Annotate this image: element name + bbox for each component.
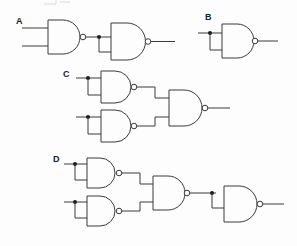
wire-d1-branch-down — [75, 164, 87, 180]
wire-c1-to-c3 — [137, 87, 169, 98]
wire-d1-to-d3 — [122, 173, 153, 184]
circuit-b-label: B — [205, 12, 212, 22]
wire-a-branch-down — [99, 37, 111, 52]
circuit-c: C — [63, 69, 230, 142]
gate-a1-nand — [48, 20, 86, 54]
circuit-a: A — [16, 16, 175, 60]
gate-c2-nand-inverter — [101, 110, 137, 142]
logic-circuit-diagram: A B — [0, 0, 297, 246]
gate-d4-nand-inverter — [224, 186, 263, 222]
wire-c1-branch-down — [88, 78, 101, 95]
gate-d1-nand-inverter — [87, 158, 122, 188]
gate-c3-nand — [169, 90, 208, 126]
wire-d2-to-d3 — [122, 202, 153, 211]
gate-b1-nand-inverter — [222, 24, 258, 58]
circuit-d-label: D — [53, 154, 60, 164]
gate-c1-nand-inverter — [101, 71, 137, 103]
logic-diagram-canvas: A B — [0, 0, 297, 246]
wire-d4-branch-down — [212, 193, 224, 208]
circuit-a-label: A — [16, 16, 23, 26]
wire-c2-branch-down — [88, 117, 101, 134]
wire-d2-branch-down — [75, 202, 87, 218]
circuit-c-label: C — [63, 69, 70, 79]
circuit-b: B — [198, 12, 278, 58]
circuit-d: D — [53, 154, 284, 226]
top-edge-fragment — [44, 0, 70, 4]
gate-d2-nand-inverter — [87, 196, 122, 226]
gate-d3-nand — [153, 176, 190, 210]
wire-c2-to-c3 — [137, 117, 169, 126]
gate-a2-nand-inverter — [111, 23, 151, 60]
wire-b-branch-down — [210, 33, 222, 50]
